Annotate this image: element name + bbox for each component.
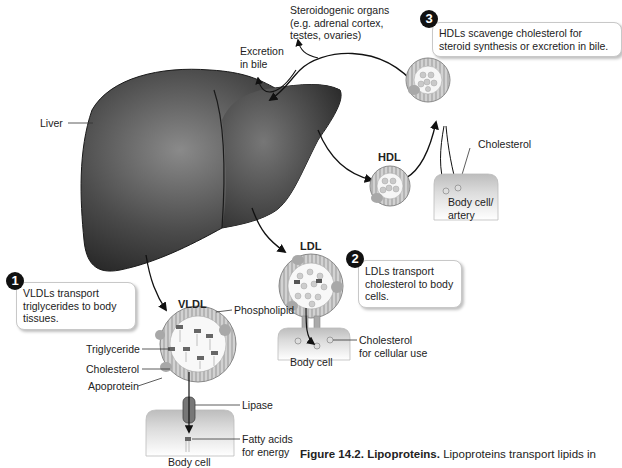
step-2-callout: LDLs transport cholesterol to body cells… [358, 260, 462, 308]
step-2-badge: 2 [346, 250, 364, 268]
figure-number: Figure 14.2. [300, 448, 364, 460]
ldl-particle [279, 254, 343, 334]
step-3-callout: HDLs scavenge cholesterol for steroid sy… [432, 22, 622, 57]
figure-title: Lipoproteins. [367, 448, 440, 460]
ldl-body-cell-label: Body cell [290, 356, 333, 369]
steroidogenic-organs-label: Steroidogenic organs (e.g. adrenal corte… [290, 4, 389, 42]
hdl-particle-scavenging [406, 58, 450, 102]
cholesterol-cellular-label: Cholesterol for cellular use [359, 334, 427, 359]
hdl-body-cell-label: Body cell/ artery [448, 196, 494, 221]
cholesterol-hdl-label: Cholesterol [478, 138, 531, 151]
liver-label: Liver [40, 117, 63, 130]
step-1-callout: VLDLs transport triglycerides to body ti… [16, 282, 136, 330]
triglyceride-label: Triglyceride [86, 343, 140, 356]
phospholipid-label: Phospholipid [234, 304, 294, 317]
ldl-label: LDL [300, 240, 321, 253]
vldl-particle [155, 306, 236, 382]
excretion-in-bile-label: Excretion in bile [240, 45, 284, 70]
hdl-particle [370, 166, 410, 206]
lipase-label: Lipase [242, 399, 273, 412]
vldl-label: VLDL [178, 298, 207, 311]
cholesterol-label: Cholesterol [86, 363, 139, 376]
figure-text: Lipoproteins transport lipids in [443, 448, 596, 460]
vldl-body-cell [146, 397, 234, 456]
apoprotein-label: Apoprotein [88, 380, 139, 393]
step-1-badge: 1 [6, 272, 24, 290]
hdl-label: HDL [378, 151, 401, 164]
vldl-body-cell-label: Body cell [168, 456, 211, 468]
step-3-badge: 3 [420, 10, 438, 28]
figure-caption: Figure 14.2. Lipoproteins. Lipoproteins … [300, 448, 596, 460]
fatty-acids-label: Fatty acids for energy [242, 433, 293, 458]
